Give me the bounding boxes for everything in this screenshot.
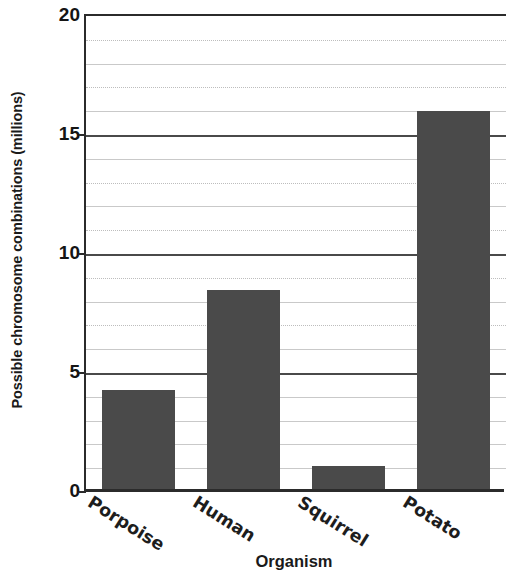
y-tick-mark-15 xyxy=(79,134,86,136)
plot-area xyxy=(84,14,506,492)
bar-porpoise[interactable] xyxy=(102,390,176,492)
y-tick-label-10: 10 xyxy=(36,243,80,262)
y-axis-tick-labels: 05101520 xyxy=(34,0,80,582)
y-tick-label-20: 20 xyxy=(36,5,80,24)
gridline-18 xyxy=(86,64,506,65)
y-tick-mark-5 xyxy=(79,372,86,374)
x-axis-tick-labels: PorpoiseHumanSquirrelPotato xyxy=(84,492,504,554)
y-axis-title: Possible chromosome combinations (millio… xyxy=(9,91,25,408)
bar-potato[interactable] xyxy=(417,111,491,492)
x-tick-label-porpoise: Porpoise xyxy=(84,492,168,555)
y-tick-mark-10 xyxy=(79,253,86,255)
y-tick-label-5: 5 xyxy=(36,362,80,381)
y-axis-title-container: Possible chromosome combinations (millio… xyxy=(0,0,34,500)
x-tick-label-human: Human xyxy=(189,492,259,546)
bar-human[interactable] xyxy=(207,290,281,492)
y-tick-label-0: 0 xyxy=(36,481,80,500)
x-axis-title: Organism xyxy=(84,552,504,571)
gridline-17 xyxy=(86,87,506,89)
x-tick-label-potato: Potato xyxy=(399,492,465,544)
gridline-19 xyxy=(86,40,506,42)
x-tick-label-squirrel: Squirrel xyxy=(294,492,371,551)
y-tick-label-15: 15 xyxy=(36,124,80,143)
